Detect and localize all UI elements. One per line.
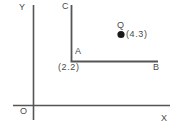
y-axis-label: Y <box>19 3 25 12</box>
point-a-label: A <box>75 47 81 56</box>
origin-label: O <box>20 107 27 116</box>
point-q-label: Q <box>117 21 124 30</box>
point-c-label: C <box>62 2 69 11</box>
point-a-coordinate-label: (2.2) <box>58 63 80 72</box>
x-axis-label: X <box>161 114 167 123</box>
point-b-label: B <box>153 63 159 72</box>
point-q-marker <box>117 31 124 38</box>
figure-canvas: Y X O C A (2.2) B Q (4.3) <box>0 0 179 133</box>
point-q-coordinate-label: (4.3) <box>126 30 148 39</box>
